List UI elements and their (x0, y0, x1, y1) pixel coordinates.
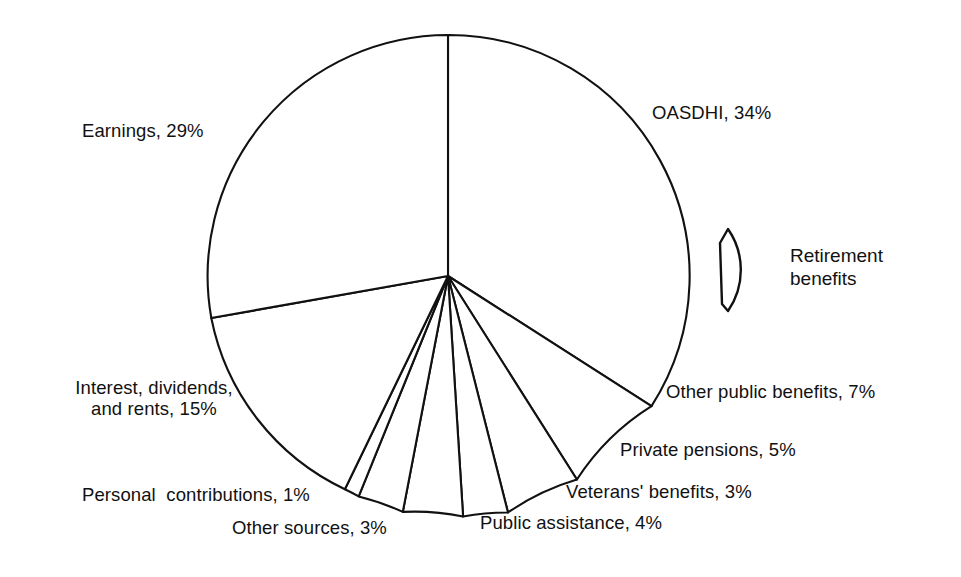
slice-label-other-sources: Other sources, 3% (232, 517, 387, 538)
slice-label-veterans-benefits: Veterans' benefits, 3% (566, 481, 752, 502)
slice-label-public-assistance: Public assistance, 4% (480, 512, 662, 533)
slice-label-oasdhi: OASDHI, 34% (652, 102, 771, 123)
slice-label-interest-dividends-rents: Interest, dividends, and rents, 15% (44, 377, 264, 419)
pie-chart-figure: OASDHI, 34% Earnings, 29% Interest, divi… (0, 0, 961, 577)
pie-slice-earnings[interactable] (208, 35, 448, 318)
slice-label-private-pensions: Private pensions, 5% (620, 439, 796, 460)
slice-label-personal-contributions: Personal contributions, 1% (82, 484, 310, 505)
slice-label-other-public-benefits: Other public benefits, 7% (666, 381, 875, 402)
slice-label-earnings: Earnings, 29% (82, 120, 204, 141)
chart-area: OASDHI, 34% Earnings, 29% Interest, divi… (0, 0, 961, 577)
pie-wedge-icon (720, 229, 741, 311)
legend-label-retirement-benefits: Retirement benefits (790, 244, 883, 290)
pie-slices (208, 35, 690, 517)
